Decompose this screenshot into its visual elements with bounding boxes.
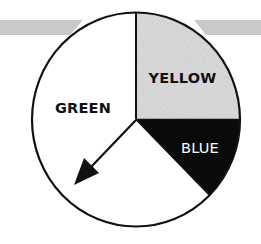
label-green: GREEN <box>55 100 111 116</box>
label-yellow: YELLOW <box>148 70 217 86</box>
banner-right <box>194 20 261 35</box>
label-blue: BLUE <box>181 140 219 156</box>
banner-left <box>0 20 83 35</box>
spinner-diagram: YELLOW GREEN BLUE <box>0 0 261 244</box>
